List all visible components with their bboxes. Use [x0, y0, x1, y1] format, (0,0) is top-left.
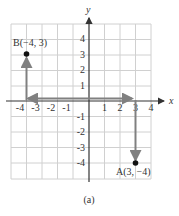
svg-text:-1: -1 [62, 102, 70, 113]
svg-text:-4: -4 [16, 102, 24, 113]
point-B [24, 51, 30, 57]
svg-text:2: 2 [118, 102, 123, 113]
svg-text:4: 4 [80, 33, 85, 44]
svg-text:-3: -3 [77, 142, 85, 153]
svg-text:2: 2 [80, 64, 85, 75]
svg-text:-1: -1 [77, 111, 85, 122]
svg-text:-2: -2 [47, 102, 55, 113]
svg-text:-2: -2 [77, 126, 85, 137]
svg-text:-3: -3 [31, 102, 39, 113]
x-axis-label: x [168, 95, 174, 106]
svg-text:4: 4 [149, 102, 154, 113]
svg-text:1: 1 [102, 102, 107, 113]
svg-text:3: 3 [80, 49, 85, 60]
point-A-label: A(3, −4) [116, 166, 151, 178]
point-A [133, 160, 139, 166]
figure-caption: (a) [83, 194, 94, 206]
svg-text:-4: -4 [77, 157, 85, 168]
coordinate-plane: x y -4 -3 -2 -1 1 2 3 4 4 3 2 1 -1 -2 -3… [0, 0, 179, 216]
point-B-label: B(−4, 3) [13, 37, 47, 49]
svg-text:1: 1 [80, 80, 85, 91]
y-axis-label: y [85, 4, 91, 15]
